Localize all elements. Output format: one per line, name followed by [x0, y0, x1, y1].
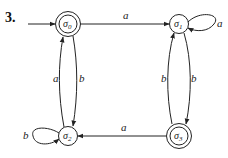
state-s1-subscript: 1: [179, 23, 183, 31]
state-s2-subscript: 2: [68, 135, 72, 143]
edge-label-s0-s1: a: [123, 9, 129, 21]
edge-label-s1-self: a: [217, 17, 223, 29]
edge-label-s2-self: b: [23, 129, 29, 141]
state-s0-subscript: 0: [68, 23, 72, 31]
edge-s0-s2: [73, 36, 77, 126]
edge-s3-s1: [168, 33, 174, 124]
edge-label-s3-s1: b: [161, 72, 167, 84]
state-s1: σ1: [170, 15, 189, 34]
edge-label-s3-s2: a: [121, 121, 127, 133]
edge-s1-self: [188, 15, 216, 31]
state-s3-subscript: 3: [178, 135, 183, 143]
state-s0: σ0: [56, 12, 81, 37]
edge-s1-s3: [184, 33, 190, 124]
edge-label-s0-s2: b: [79, 72, 85, 84]
state-diagram: a a a b b b b a σ0 σ1 σ2 σ3: [0, 0, 228, 158]
edge-label-s1-s3: b: [191, 72, 197, 84]
state-s2: σ2: [59, 127, 78, 146]
edge-s2-self: [33, 128, 59, 144]
state-s3: σ3: [167, 124, 192, 149]
edge-label-s2-s0: a: [53, 72, 59, 84]
edge-s2-s0: [59, 37, 64, 127]
